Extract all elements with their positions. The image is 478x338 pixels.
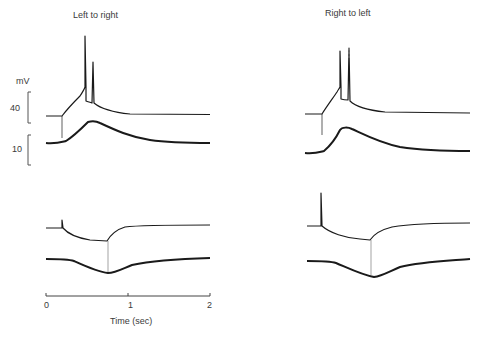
scale-bars — [28, 92, 31, 165]
figure-caption-cutoff — [100, 332, 460, 338]
left-panel-traces — [46, 36, 210, 273]
time-axis — [46, 293, 210, 296]
right-trace-bottom-2 — [307, 259, 470, 277]
right-trace-bottom — [305, 128, 470, 154]
right-panel-traces — [305, 48, 470, 277]
left-trace-bottom-2 — [46, 258, 210, 273]
scale-bar-40mv — [28, 92, 31, 123]
right-trace-top-2 — [307, 193, 470, 240]
traces-plot — [0, 0, 478, 338]
right-trace-top — [305, 48, 470, 114]
left-trace-bottom — [46, 121, 210, 143]
scale-bar-10mv — [28, 135, 31, 165]
left-trace-top-2 — [46, 220, 210, 241]
left-trace-top — [46, 36, 210, 116]
